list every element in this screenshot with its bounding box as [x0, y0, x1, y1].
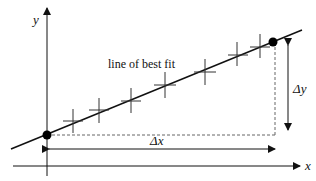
- data-point: [89, 98, 109, 123]
- x-axis-label: x: [304, 158, 311, 173]
- right-endpoint-dot: [269, 38, 278, 47]
- best-fit-line: [11, 30, 302, 149]
- data-point: [250, 34, 270, 58]
- best-fit-line-label: line of best fit: [108, 57, 176, 71]
- y-axis-label: y: [31, 12, 39, 27]
- data-point: [154, 72, 176, 98]
- left-endpoint-dot: [43, 131, 52, 140]
- data-points: [63, 34, 270, 133]
- data-point: [121, 88, 141, 113]
- best-fit-diagram: y x line of best fit Δx Δy: [0, 0, 316, 181]
- data-point: [194, 59, 216, 85]
- delta-x-label: Δx: [149, 133, 164, 148]
- delta-y-label: Δy: [292, 81, 307, 96]
- data-point: [63, 109, 83, 133]
